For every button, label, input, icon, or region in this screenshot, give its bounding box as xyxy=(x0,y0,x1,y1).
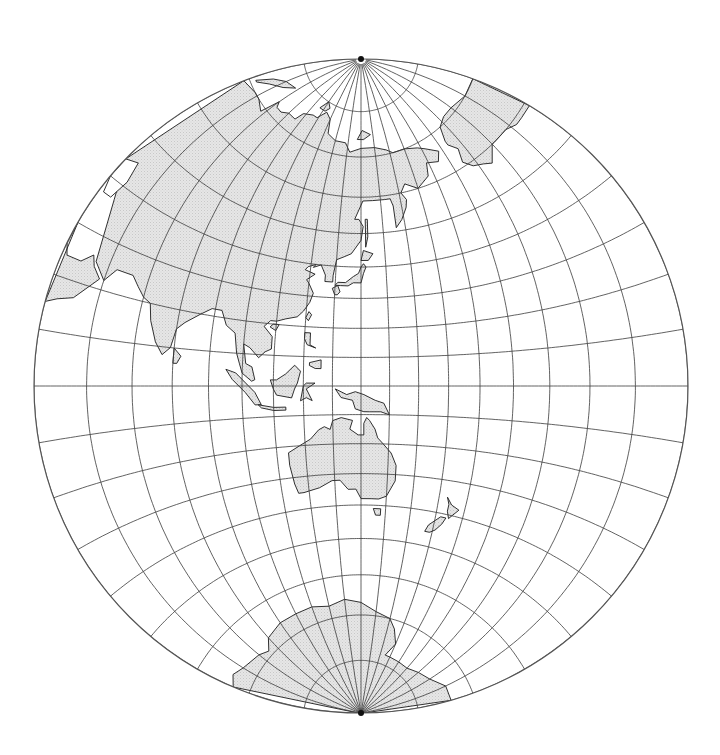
land-java xyxy=(258,405,286,411)
land-new-guinea xyxy=(335,389,389,415)
land-borneo xyxy=(270,365,300,398)
land-philippines-luzon xyxy=(305,333,316,348)
land-arabia xyxy=(45,223,99,302)
land-philippines-mindanao xyxy=(309,360,321,369)
land-new-siberian-islands xyxy=(357,131,370,140)
land-japan-hokkaido xyxy=(361,251,373,261)
land-hainan xyxy=(270,324,279,331)
land-severnaya-zemlya xyxy=(320,102,330,111)
land-eurasia xyxy=(96,81,439,382)
land-alaska xyxy=(440,79,529,166)
south-pole-marker xyxy=(358,710,364,716)
land-japan-kyushu xyxy=(332,286,340,295)
hemisphere-map xyxy=(0,0,720,755)
land-tasmania xyxy=(373,509,380,516)
north-pole-marker xyxy=(358,56,364,62)
land-taiwan xyxy=(306,312,312,321)
